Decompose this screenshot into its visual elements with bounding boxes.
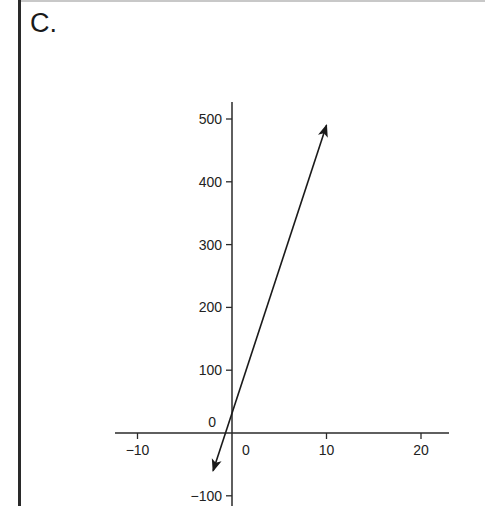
- y-tick-label: 300: [199, 237, 223, 253]
- y-tick-label: 0: [208, 414, 216, 430]
- y-tick-label: 400: [199, 174, 223, 190]
- x-tick-label: −10: [126, 442, 150, 458]
- y-tick-label: 100: [199, 362, 223, 378]
- y-tick-label: 500: [199, 111, 223, 127]
- x-tick-label: 0: [242, 442, 250, 458]
- chart: −1001020 −1000100200300400500: [0, 0, 485, 506]
- axes: [115, 102, 449, 506]
- y-ticks: −1000100200300400500: [190, 111, 232, 504]
- x-tick-label: 20: [413, 442, 429, 458]
- y-tick-label: −100: [190, 488, 222, 504]
- x-ticks: −1001020: [126, 433, 429, 458]
- y-tick-label: 200: [199, 299, 223, 315]
- data-line: [213, 125, 326, 470]
- x-tick-label: 10: [319, 442, 335, 458]
